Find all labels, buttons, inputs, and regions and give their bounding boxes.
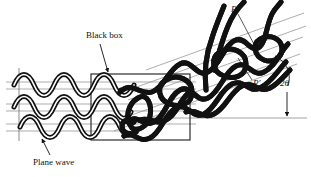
two-theta-angle-label: 2θ bbox=[280, 78, 289, 88]
plane-wave-leader bbox=[42, 139, 50, 155]
scattering-point bbox=[157, 116, 162, 121]
scattered-waves bbox=[120, 2, 290, 140]
ray-p-prime-label: P′ bbox=[253, 78, 260, 88]
black-box-leader bbox=[100, 44, 108, 72]
plane-wave-3 bbox=[20, 117, 132, 138]
scattering-point bbox=[118, 87, 123, 92]
scattering-point bbox=[128, 121, 133, 126]
black-box-label: Black box bbox=[86, 30, 123, 40]
diagram-canvas bbox=[0, 0, 311, 177]
plane-wave-label: Plane wave bbox=[33, 157, 74, 167]
ray-p-label: P bbox=[231, 4, 237, 14]
scattering-diagram: Black box Plane wave P P′ 2θ bbox=[0, 0, 311, 177]
plane-wave-1 bbox=[14, 75, 134, 96]
